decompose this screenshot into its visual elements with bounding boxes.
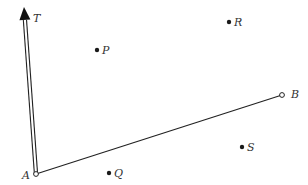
points: PRSQ [95,16,255,180]
point-P [95,48,99,52]
ray-label-T: T [33,12,42,25]
ray-AT [19,7,37,174]
label-B: B [290,88,299,101]
ray-shaft-right [23,20,34,174]
label-R: R [233,16,242,29]
point-S [240,145,244,149]
point-R [227,20,231,24]
arrowhead-icon [19,7,30,20]
segment-AB [36,95,282,174]
point-Q [107,171,111,175]
label-P: P [101,44,110,57]
endpoint-A [34,172,39,177]
label-S: S [247,141,255,154]
ray-shaft-left [27,20,38,174]
endpoint-B [280,93,285,98]
label-A: A [21,169,30,182]
label-Q: Q [114,167,123,180]
endpoints: AB [21,88,299,182]
geometry-diagram: AB PRSQ T [0,0,308,185]
